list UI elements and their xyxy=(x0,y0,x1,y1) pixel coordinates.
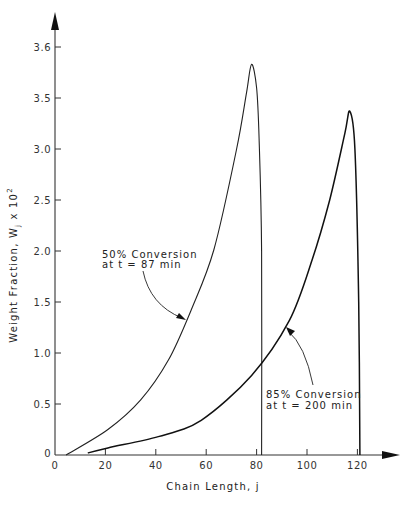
x-tick-label: 0 xyxy=(52,460,59,471)
y-axis-title-sup: 2 xyxy=(6,187,14,193)
y-tick-label: 1.0 xyxy=(34,348,51,359)
y-axis-arrow-icon xyxy=(51,12,59,30)
svg-text:Weight Fraction, Wj x 102: Weight Fraction, Wj x 102 xyxy=(6,187,22,343)
y-ticks: 00.51.01.52.02.53.03.53.6 xyxy=(34,42,61,459)
weight-fraction-chart: 00.51.01.52.02.53.03.53.6 02040608010012… xyxy=(0,0,410,507)
y-tick-label: 3.0 xyxy=(34,144,51,155)
annotation-85-arrow-icon xyxy=(288,331,313,385)
x-axis xyxy=(55,451,400,459)
annotation-50-percent: 50% Conversion at t = 87 min xyxy=(102,249,197,320)
x-axis-title: Chain Length, j xyxy=(166,481,259,492)
x-tick-label: 100 xyxy=(297,460,318,471)
x-tick-label: 120 xyxy=(347,460,368,471)
y-tick-label: 2.5 xyxy=(34,195,51,206)
annotation-85-line1: 85% Conversion xyxy=(266,389,361,400)
annotation-50-line2: at t = 87 min xyxy=(102,259,182,270)
y-tick-label: 3.5 xyxy=(34,93,51,104)
y-axis-title-suffix: x 10 xyxy=(8,193,19,224)
y-axis xyxy=(51,12,59,455)
y-tick-label: 2.0 xyxy=(34,246,51,257)
y-axis-title: Weight Fraction, Wj x 102 xyxy=(6,187,22,343)
annotation-50-arrowhead-icon xyxy=(176,313,186,320)
x-tick-label: 20 xyxy=(99,460,113,471)
x-tick-label: 40 xyxy=(149,460,163,471)
x-axis-arrow-icon xyxy=(382,451,400,459)
y-tick-label: 1.5 xyxy=(34,297,51,308)
x-tick-label: 80 xyxy=(250,460,264,471)
annotation-85-arrowhead-icon xyxy=(286,327,295,336)
annotation-50-arrow-icon xyxy=(143,271,182,318)
x-ticks: 020406080100120 xyxy=(52,449,368,471)
y-axis-title-main: Weight Fraction, W xyxy=(8,227,19,343)
annotation-85-percent: 85% Conversion at t = 200 min xyxy=(266,327,361,411)
y-tick-label: 0 xyxy=(44,448,51,459)
y-tick-label: 0.5 xyxy=(34,399,51,410)
x-tick-label: 60 xyxy=(199,460,213,471)
y-tick-label: 3.6 xyxy=(34,42,51,53)
annotation-85-line2: at t = 200 min xyxy=(266,400,353,411)
